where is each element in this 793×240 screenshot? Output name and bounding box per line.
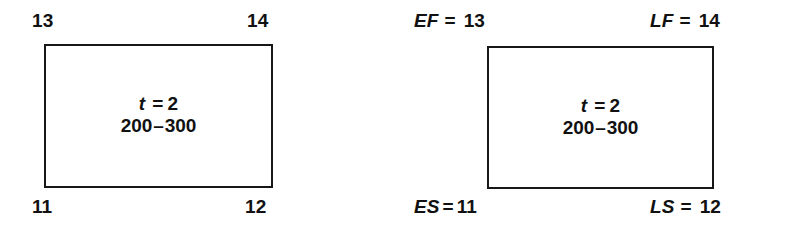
activity-node-box: t=2 200–300 [44,44,273,188]
range-start-value: 200 [563,117,594,138]
early-finish-label: EF=13 [414,10,485,32]
late-start-value: 12 [697,196,721,217]
late-finish-variable: LF [650,10,673,31]
early-start-variable: ES [414,196,440,217]
late-finish-label: LF=14 [650,10,720,32]
early-start-equals-sign: = [440,196,456,217]
corner-label-top-left: 13 [32,10,53,32]
early-finish-equals-sign: = [438,10,460,31]
duration-equals-sign: = [590,94,609,115]
early-start-value: 11 [456,196,477,217]
early-finish-value: 13 [461,10,485,31]
range-dash: – [152,115,164,136]
range-dash: – [594,117,606,138]
duration-line: t=2 [489,94,712,116]
duration-variable: t [139,93,149,114]
range-start-value: 200 [121,115,152,136]
time-range-line: 200–300 [46,115,271,137]
duration-value: 2 [610,94,621,115]
figure-canvas: 13 14 t=2 200–300 11 12 EF=13 LF=14 [0,0,793,240]
early-finish-variable: EF [414,10,438,31]
activity-node-box: t=2 200–300 [487,46,714,189]
duration-variable: t [581,94,591,115]
late-start-variable: LS [650,196,674,217]
activity-node-center-text: t=2 200–300 [46,93,271,138]
range-end-value: 300 [607,117,638,138]
late-start-equals-sign: = [674,196,696,217]
range-end-value: 300 [165,115,196,136]
corner-label-bottom-left: 11 [32,196,52,218]
early-start-label: ES=11 [414,196,477,218]
duration-equals-sign: = [148,93,167,114]
corner-label-bottom-right: 12 [245,196,266,218]
corner-label-top-right: 14 [247,10,268,32]
late-finish-equals-sign: = [673,10,695,31]
late-finish-value: 14 [696,10,720,31]
time-range-line: 200–300 [489,117,712,139]
duration-value: 2 [168,93,179,114]
late-start-label: LS=12 [650,196,721,218]
duration-line: t=2 [46,93,271,115]
activity-node-center-text: t=2 200–300 [489,94,712,139]
